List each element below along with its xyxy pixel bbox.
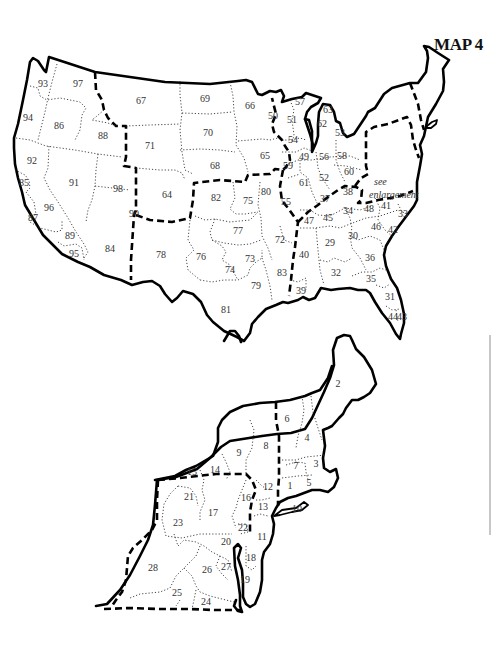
- region-label-45: 45: [323, 212, 333, 223]
- region-label-62: 62: [317, 118, 327, 129]
- region-label-55: 55: [281, 196, 291, 207]
- region-label-29: 29: [325, 237, 335, 248]
- region-label-40: 40: [299, 249, 309, 260]
- region-label-88: 88: [98, 130, 108, 141]
- region-label-30: 30: [348, 230, 358, 241]
- region-label-64: 64: [162, 189, 172, 200]
- region-label-87: 87: [28, 212, 38, 223]
- region-label-15: 15: [187, 466, 197, 477]
- region-label-94: 94: [23, 112, 33, 123]
- region-label-65: 65: [260, 150, 270, 161]
- region-label-75: 75: [243, 195, 253, 206]
- region-label-82: 82: [211, 192, 221, 203]
- region-label-38: 38: [343, 186, 353, 197]
- region-label-12: 12: [263, 481, 273, 492]
- region-label-84: 84: [105, 243, 115, 254]
- region-label-10: 10: [292, 503, 302, 514]
- ne-zone-boundary-vt-ny: [276, 402, 279, 506]
- region-label-19: 19: [240, 574, 250, 585]
- ne-north-border-ny: [155, 366, 332, 480]
- region-label-85: 85: [19, 177, 29, 188]
- region-label-24: 24: [201, 596, 211, 607]
- region-label-89: 89: [65, 230, 75, 241]
- region-label-95: 95: [69, 248, 79, 259]
- region-label-79: 79: [251, 280, 261, 291]
- region-label-67: 67: [136, 95, 146, 106]
- region-label-18: 18: [246, 552, 256, 563]
- region-label-90: 90: [129, 208, 139, 219]
- region-label-70: 70: [203, 127, 213, 138]
- region-label-96: 96: [44, 202, 54, 213]
- region-label-32: 32: [331, 267, 341, 278]
- region-label-81: 81: [221, 304, 231, 315]
- region-label-22: 22: [238, 522, 248, 533]
- region-label-6: 6: [285, 413, 290, 424]
- region-label-27: 27: [221, 561, 231, 572]
- region-label-25: 25: [172, 587, 182, 598]
- region-label-31: 31: [385, 291, 395, 302]
- region-label-35: 35: [366, 273, 376, 284]
- region-label-41: 41: [381, 200, 391, 211]
- region-label-37: 37: [320, 193, 330, 204]
- see-enlargement-note-line1: see: [374, 176, 387, 187]
- region-label-98: 98: [113, 183, 123, 194]
- region-label-59: 59: [283, 160, 293, 171]
- us-region-labels: 9397676966948688717092686591986482758085…: [19, 78, 408, 322]
- region-label-11: 11: [257, 531, 267, 542]
- region-label-3: 3: [314, 458, 319, 469]
- region-label-60: 60: [344, 166, 354, 177]
- zone-boundary-ne-vertical: [410, 83, 424, 130]
- region-label-51: 51: [287, 114, 297, 125]
- region-label-57: 57: [295, 96, 305, 107]
- region-label-66: 66: [245, 100, 255, 111]
- region-label-7: 7: [294, 460, 299, 471]
- region-label-20: 20: [221, 536, 231, 547]
- region-label-33: 33: [398, 208, 408, 219]
- region-label-68: 68: [210, 160, 220, 171]
- region-label-69: 69: [200, 93, 210, 104]
- region-label-14: 14: [210, 464, 220, 475]
- region-label-97: 97: [73, 78, 83, 89]
- region-label-8: 8: [264, 440, 269, 451]
- region-label-63: 63: [323, 104, 333, 115]
- region-label-16: 16: [241, 492, 251, 503]
- region-label-43: 43: [397, 311, 407, 322]
- long-island-upper: [427, 120, 437, 128]
- see-enlargement-note-line2: enlargement: [369, 189, 419, 200]
- region-label-58: 58: [337, 150, 347, 161]
- region-label-4: 4: [305, 432, 310, 443]
- region-label-80: 80: [261, 186, 271, 197]
- region-label-13: 13: [258, 501, 268, 512]
- region-label-93: 93: [38, 78, 48, 89]
- region-label-9: 9: [237, 447, 242, 458]
- ne-zone-boundary-south: [104, 608, 240, 610]
- region-label-61: 61: [299, 177, 309, 188]
- region-label-73: 73: [245, 253, 255, 264]
- region-label-83: 83: [277, 267, 287, 278]
- ne-region-labels: 2649873151415121621131017232211201828272…: [148, 378, 341, 607]
- region-label-46: 46: [371, 221, 381, 232]
- region-label-54: 54: [288, 134, 298, 145]
- region-label-23: 23: [173, 517, 183, 528]
- region-label-50: 50: [268, 110, 278, 121]
- region-label-36: 36: [365, 252, 375, 263]
- region-label-56: 56: [319, 151, 329, 162]
- zone-boundary-ohio-pa: [355, 117, 419, 186]
- region-label-47: 47: [304, 215, 314, 226]
- region-label-77: 77: [233, 225, 243, 236]
- region-label-42: 42: [388, 224, 398, 235]
- region-label-48: 48: [364, 203, 374, 214]
- region-label-76: 76: [196, 251, 206, 262]
- region-label-78: 78: [156, 249, 166, 260]
- region-label-2: 2: [336, 378, 341, 389]
- region-label-86: 86: [54, 120, 64, 131]
- region-label-5: 5: [307, 477, 312, 488]
- ne-coastline: [96, 331, 376, 612]
- region-label-74: 74: [225, 264, 235, 275]
- region-label-72: 72: [275, 234, 285, 245]
- us-map: 9397676966948688717092686591986482758085…: [14, 46, 449, 341]
- region-label-49: 49: [299, 151, 309, 162]
- region-label-21: 21: [184, 491, 194, 502]
- northeast-enlargement-map: 2649873151415121621131017232211201828272…: [96, 331, 376, 612]
- region-label-39: 39: [296, 285, 306, 296]
